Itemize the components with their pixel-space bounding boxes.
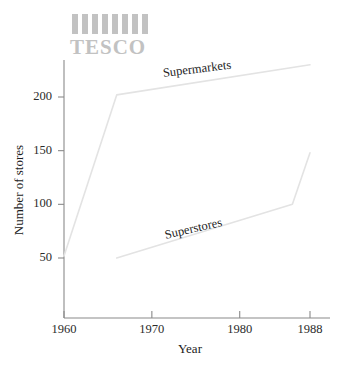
x-tick-label: 1980 [217,322,263,337]
y-tick-label: 50 [18,250,52,265]
axes [64,60,330,318]
plot-area [0,0,346,372]
chart-figure: TESCO 50 100 150 200 1960 1970 1980 1988… [0,0,346,372]
y-axis-title: Number of stores [11,135,27,245]
series-line-superstores [117,153,310,258]
x-axis-ticks [64,311,310,318]
y-axis-ticks [58,97,64,258]
y-tick-label: 200 [18,89,52,104]
x-tick-label: 1988 [287,322,333,337]
x-tick-label: 1960 [41,322,87,337]
x-axis-title: Year [150,341,230,357]
x-tick-label: 1970 [129,322,175,337]
